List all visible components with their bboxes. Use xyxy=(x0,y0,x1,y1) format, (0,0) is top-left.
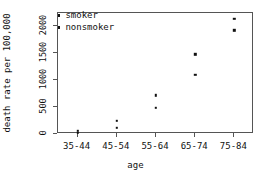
y-tick-label-text: 1500 xyxy=(38,42,48,62)
x-tick-label: 45-54 xyxy=(102,141,129,151)
x-axis-title-text: age xyxy=(127,160,143,170)
data-point xyxy=(116,127,118,129)
data-point xyxy=(76,132,78,134)
x-tick-mark xyxy=(155,133,156,137)
legend-item-label: nonsmoker xyxy=(65,23,114,32)
data-point xyxy=(155,106,157,108)
legend-marker-icon xyxy=(58,14,60,16)
y-tick-mark xyxy=(53,133,57,134)
y-tick-label-text: 0 xyxy=(38,130,48,135)
y-axis-title: death rate per 100,000 xyxy=(0,0,14,145)
y-tick-label-text: 500 xyxy=(38,98,48,113)
data-point xyxy=(194,74,196,76)
y-tick-label: 500 xyxy=(33,97,53,115)
data-point xyxy=(233,18,235,20)
y-tick-label-text: 1000 xyxy=(38,69,48,89)
y-tick-label: 0 xyxy=(33,124,53,142)
data-point xyxy=(155,94,157,96)
data-point xyxy=(116,119,118,121)
legend-item-label: smoker xyxy=(65,11,98,20)
x-tick-mark xyxy=(194,133,195,137)
y-tick-label: 1500 xyxy=(33,43,53,61)
data-point xyxy=(194,53,196,55)
x-tick-label: 55-64 xyxy=(141,141,168,151)
legend-item: nonsmoker xyxy=(58,23,114,32)
y-tick-label-text: 2000 xyxy=(38,15,48,35)
x-tick-label: 75-84 xyxy=(220,141,247,151)
legend-marker-icon xyxy=(58,26,60,28)
x-tick-label: 35-44 xyxy=(63,141,90,151)
legend-item: smoker xyxy=(58,11,98,20)
chart-canvas: death rate per 100,000 0500100015002000 … xyxy=(0,0,271,178)
y-axis-title-text: death rate per 100,000 xyxy=(2,13,12,132)
x-tick-mark xyxy=(116,133,117,137)
y-tick-label: 1000 xyxy=(33,70,53,88)
y-tick-label: 2000 xyxy=(33,16,53,34)
x-tick-label: 65-74 xyxy=(181,141,208,151)
data-point xyxy=(233,29,235,31)
x-tick-mark xyxy=(233,133,234,137)
x-axis-title: age xyxy=(0,160,271,170)
